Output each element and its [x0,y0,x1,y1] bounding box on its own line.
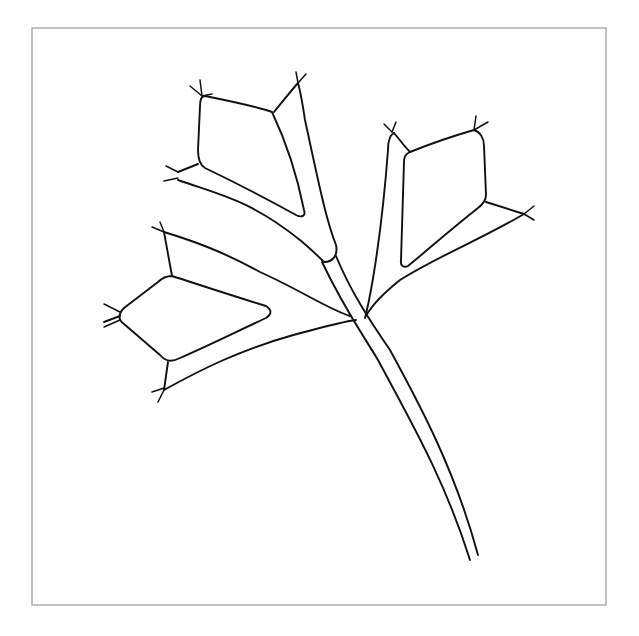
upper-leaf-outer [178,83,337,262]
right-leaf-lower-edge [366,214,524,316]
tip-stroke [104,304,120,312]
left-leaf-left-tip [104,304,120,327]
right-leaf [365,130,524,318]
left-leaf-top-tip [152,222,164,232]
tip-stroke [474,122,488,130]
tip-stroke [200,80,202,96]
stem [322,256,478,560]
tip-stroke [152,388,164,392]
left-leaf-lower-join [164,362,168,390]
left-leaf-inner [120,276,271,361]
stem-left-edge [322,262,470,560]
left-leaf-bottom-tip [152,388,164,402]
left-leaf-upper-join [164,232,172,276]
tip-stroke [164,178,178,181]
tip-stroke [392,122,396,132]
tip-stroke [158,390,164,402]
leaf-tips [104,72,534,402]
upper-leaf [178,83,337,262]
tip-stroke [474,116,476,130]
tip-stroke [166,166,178,172]
right-leaf-top-right-tip [474,116,488,130]
right-leaf-top-edge [394,133,410,152]
tip-stroke [524,214,534,220]
right-leaf-outer [365,133,394,318]
tip-stroke [384,124,392,132]
upper-leaf-top-left-tip [190,80,212,96]
right-leaf-right-join [486,202,524,214]
upper-leaf-top-right-tip [296,72,306,83]
upper-leaf-left-join [178,164,198,172]
plant-line-drawing [0,0,639,636]
tip-stroke [202,94,212,96]
tip-stroke [296,72,298,83]
upper-leaf-top-edge [274,83,298,112]
right-leaf-right-tip [524,206,534,220]
tip-stroke [298,74,306,83]
upper-leaf-inner [198,96,305,216]
upper-leaf-left-tip [164,166,178,181]
right-leaf-inner [401,130,486,267]
left-leaf-lower-edge [164,320,356,390]
right-leaf-top-left-tip [384,122,396,132]
tip-stroke [524,206,534,214]
stem-right-edge [336,256,478,555]
